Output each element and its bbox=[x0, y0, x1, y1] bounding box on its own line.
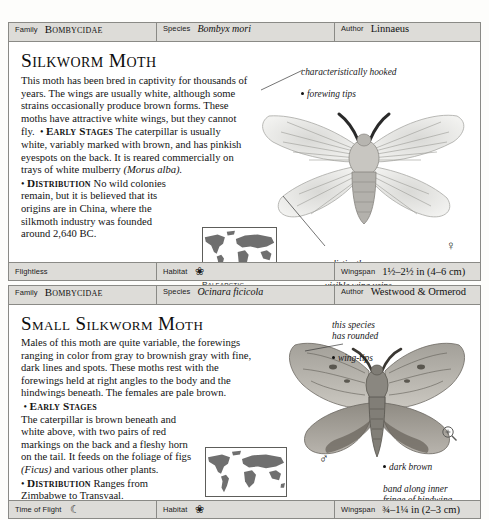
distribution-map bbox=[205, 447, 287, 497]
wingspan-label: Wingspan bbox=[341, 505, 375, 514]
annotation-dot-icon bbox=[383, 465, 386, 468]
species-label: Species bbox=[163, 287, 190, 296]
header-cell-author: Author Linnaeus bbox=[335, 23, 480, 41]
species-entry-small-silkworm-moth: Family Bombycidae Species Ocinara ficico… bbox=[8, 285, 481, 517]
entry-header-bar: Family Bombycidae Species Bombyx mori Au… bbox=[9, 23, 480, 42]
annotation-line-2: wing-tips bbox=[338, 353, 373, 363]
family-value: Bombycidae bbox=[45, 23, 103, 35]
author-label: Author bbox=[341, 287, 364, 296]
page-title: Small Silkworm Moth bbox=[21, 313, 203, 335]
header-cell-species: Species Ocinara ficicola bbox=[157, 286, 335, 304]
footer-cell-habitat: Habitat ❀ bbox=[157, 263, 335, 280]
annotation-forewing-tips: characteristically hooked forewing tips bbox=[301, 56, 397, 100]
family-value: Bombycidae bbox=[45, 286, 103, 298]
annotation-line-2: forewing tips bbox=[307, 89, 356, 99]
footer-cell-habitat: Habitat ❀ bbox=[157, 501, 335, 518]
author-value: Linnaeus bbox=[371, 23, 410, 34]
leaf-sprig-icon: ❀ bbox=[195, 266, 204, 277]
habitat-label: Habitat bbox=[163, 267, 187, 276]
footer-cell-wingspan: Wingspan 1½–2½ in (4–6 cm) bbox=[335, 263, 480, 280]
leader-line-wing-veins bbox=[279, 194, 339, 254]
annotation-line-1: this species has rounded bbox=[332, 320, 378, 341]
wingspan-value: ¾–1¼ in (2–3 cm) bbox=[382, 504, 460, 515]
species-entry-silkworm-moth: Family Bombycidae Species Bombyx mori Au… bbox=[8, 22, 481, 275]
early-stages-label: Early Stages bbox=[46, 125, 113, 137]
flightless-label: Flightless bbox=[15, 267, 48, 276]
early-stages-label: Early Stages bbox=[30, 400, 97, 412]
leader-line-forewing-tips bbox=[247, 60, 307, 96]
early-stages-host-plant: (Ficus) bbox=[21, 464, 52, 475]
early-stages-host-plant: (Morus alba). bbox=[123, 164, 182, 175]
header-cell-family: Family Bombycidae bbox=[9, 286, 157, 304]
early-stages-tail: and various other plants. bbox=[54, 464, 158, 475]
bullet-icon-early-stages: • bbox=[37, 126, 46, 137]
author-value: Westwood & Ormerod bbox=[371, 286, 466, 297]
leaf-sprig-icon: ❀ bbox=[195, 504, 204, 515]
distribution-label: Distribution bbox=[27, 477, 91, 489]
entry-text-block: This moth has been bred in captivity for… bbox=[21, 75, 249, 241]
page-title: Silkworm Moth bbox=[21, 50, 156, 72]
sex-symbol-female: ♀ bbox=[446, 238, 456, 254]
bullet-icon-early-stages: • bbox=[21, 401, 30, 412]
species-label: Species bbox=[163, 24, 190, 33]
annotation-hindwing-band: dark brown band along inner fringe of hi… bbox=[383, 451, 452, 506]
footer-cell-time-of-flight: Time of Flight ☾ bbox=[9, 501, 157, 518]
entry-footer-bar-2: Time of Flight ☾ Habitat ❀ Wingspan ¾–1¼… bbox=[8, 500, 481, 519]
footer-cell-flightless: Flightless bbox=[9, 263, 157, 280]
wingspan-value: 1½–2½ in (4–6 cm) bbox=[382, 266, 465, 277]
early-stages-text: The caterpillar is brown beneath and whi… bbox=[21, 414, 191, 463]
header-cell-family: Family Bombycidae bbox=[9, 23, 157, 41]
author-label: Author bbox=[341, 24, 364, 33]
wingspan-label: Wingspan bbox=[341, 267, 375, 276]
family-label: Family bbox=[15, 25, 38, 34]
field-guide-page: Family Bombycidae Species Bombyx mori Au… bbox=[0, 0, 489, 520]
header-cell-species: Species Bombyx mori bbox=[157, 23, 335, 41]
crescent-moon-icon: ☾ bbox=[70, 504, 80, 515]
header-cell-author: Author Westwood & Ormerod bbox=[335, 286, 480, 304]
entry-body: Small Silkworm Moth Males of this moth a… bbox=[9, 305, 480, 516]
distribution-label: Distribution bbox=[27, 177, 91, 189]
time-of-flight-label: Time of Flight bbox=[15, 505, 62, 514]
annotation-line-1: dark brown bbox=[389, 462, 432, 472]
sex-symbol-male: ♂ bbox=[319, 451, 329, 467]
species-value: Bombyx mori bbox=[197, 23, 251, 34]
magnifier-icon bbox=[441, 425, 458, 442]
annotation-line-1: characteristically hooked bbox=[301, 67, 397, 77]
annotation-dot-icon bbox=[301, 92, 304, 95]
annotation-dot-icon bbox=[332, 356, 335, 359]
habitat-label: Habitat bbox=[163, 505, 187, 514]
description-text: Males of this moth are quite variable, t… bbox=[21, 337, 251, 398]
entry-header-bar: Family Bombycidae Species Ocinara ficico… bbox=[9, 286, 480, 305]
species-value: Ocinara ficicola bbox=[197, 286, 263, 297]
world-map-graphic bbox=[206, 448, 286, 496]
footer-cell-wingspan: Wingspan ¾–1¼ in (2–3 cm) bbox=[335, 501, 480, 518]
entry-footer-bar-1: Flightless Habitat ❀ Wingspan 1½–2½ in (… bbox=[8, 262, 481, 281]
entry-body: Silkworm Moth This moth has been bred in… bbox=[9, 42, 480, 274]
annotation-wing-tips: this species has rounded wing-tips bbox=[332, 309, 378, 364]
family-label: Family bbox=[15, 288, 38, 297]
